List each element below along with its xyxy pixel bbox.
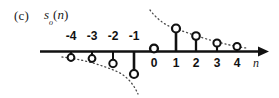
stem-plot-svg [0,0,279,98]
stem-marker-pos4 [234,43,241,50]
stem-marker-zero [150,45,158,53]
envelope-curve-negative [62,57,138,94]
x-axis-label: n [253,56,259,71]
envelope-curve-positive [150,10,246,48]
tick-label-pos1: 1 [166,56,186,70]
stem-marker-neg3 [89,55,96,62]
tick-label-pos4: 4 [227,56,247,70]
tick-label-neg1: -1 [124,29,144,43]
tick-label-neg4: -4 [61,29,81,43]
stem-marker-neg1 [130,70,138,78]
stem-marker-neg2 [109,60,116,67]
tick-label-pos3: 3 [207,56,227,70]
stem-marker-neg4 [68,54,75,61]
tick-label-zero: 0 [144,56,164,70]
stem-marker-pos2 [192,32,200,40]
figure-panel: (c) so(n) -4 -3 -2 -1 [0,0,279,98]
tick-label-neg2: -2 [103,29,123,43]
tick-label-neg3: -3 [82,29,102,43]
stem-marker-pos1 [172,25,180,33]
x-axis-arrowhead [258,47,269,57]
stem-marker-pos3 [213,39,220,46]
tick-label-pos2: 2 [186,56,206,70]
